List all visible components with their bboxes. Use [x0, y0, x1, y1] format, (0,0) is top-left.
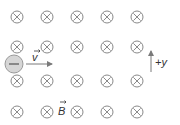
field-into-page-icon	[71, 11, 83, 23]
field-into-page-icon	[11, 11, 23, 23]
y-axis-indicator: +y	[151, 51, 168, 72]
field-into-page-row-2	[11, 41, 143, 53]
velocity-vector: v	[26, 50, 52, 65]
velocity-label: v	[32, 51, 39, 63]
field-into-page-icon	[131, 11, 143, 23]
field-into-page-icon	[131, 75, 143, 87]
y-axis-label: +y	[155, 56, 168, 68]
field-into-page-row-3	[11, 75, 143, 87]
field-into-page-icon	[71, 106, 83, 118]
field-into-page-icon	[41, 75, 53, 87]
magnetic-field-label-group: B	[58, 101, 66, 118]
field-into-page-icon	[11, 41, 23, 53]
field-into-page-icon	[41, 41, 53, 53]
field-into-page-icon	[101, 41, 113, 53]
magnetic-field-diagram: v +y B	[0, 0, 180, 125]
field-into-page-icon	[101, 106, 113, 118]
field-into-page-row-4	[11, 106, 143, 118]
field-into-page-icon	[41, 11, 53, 23]
field-into-page-icon	[131, 41, 143, 53]
field-into-page-icon	[71, 75, 83, 87]
field-into-page-icon	[11, 75, 23, 87]
field-into-page-row-1	[11, 11, 143, 23]
field-into-page-icon	[131, 106, 143, 118]
field-into-page-icon	[101, 75, 113, 87]
field-into-page-icon	[41, 106, 53, 118]
magnetic-field-label: B	[58, 105, 65, 117]
field-into-page-icon	[101, 11, 113, 23]
field-into-page-icon	[71, 41, 83, 53]
electron	[5, 55, 23, 73]
field-into-page-icon	[11, 106, 23, 118]
